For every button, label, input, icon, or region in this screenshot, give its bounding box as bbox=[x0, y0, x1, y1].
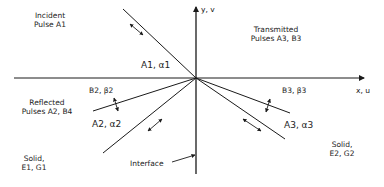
reflected-label-line2: Pulses A2, B4 bbox=[14, 107, 80, 116]
interface-label: Interface bbox=[130, 159, 164, 168]
incident-label: Incident Pulse A1 bbox=[24, 11, 76, 29]
transmitted-label: Transmitted Pulses A3, B3 bbox=[236, 25, 316, 43]
b2-label: B2, β2 bbox=[89, 86, 113, 95]
incident-label-line2: Pulse A1 bbox=[24, 20, 76, 29]
a2-polarization-arrow bbox=[148, 119, 162, 131]
transmitted-wave-a3 bbox=[196, 78, 285, 139]
transmitted-wave-b3 bbox=[196, 78, 290, 113]
solid-right-label-line2: E2, G2 bbox=[324, 149, 360, 158]
reflected-label: Reflected Pulses A2, B4 bbox=[14, 98, 80, 116]
y-axis-label: y, v bbox=[201, 5, 215, 14]
reflected-wave-a2 bbox=[103, 78, 196, 153]
a1-label: A1, α1 bbox=[141, 60, 170, 70]
x-axis-label: x, u bbox=[356, 86, 370, 95]
reflected-label-line1: Reflected bbox=[14, 98, 80, 107]
incident-label-line1: Incident bbox=[24, 11, 76, 20]
solid-left-label-line2: E1, G1 bbox=[16, 163, 52, 172]
a3-label: A3, α3 bbox=[284, 120, 313, 130]
transmitted-label-line1: Transmitted bbox=[236, 25, 316, 34]
transmitted-label-line2: Pulses A3, B3 bbox=[236, 34, 316, 43]
interface-pointer-arrow bbox=[172, 155, 195, 162]
solid-left-label-line1: Solid, bbox=[16, 154, 52, 163]
solid-right-label-line1: Solid, bbox=[324, 140, 360, 149]
solid-left-label: Solid, E1, G1 bbox=[16, 154, 52, 172]
solid-right-label: Solid, E2, G2 bbox=[324, 140, 360, 158]
a2-label: A2, α2 bbox=[92, 119, 121, 129]
b3-label: B3, β3 bbox=[282, 86, 306, 95]
